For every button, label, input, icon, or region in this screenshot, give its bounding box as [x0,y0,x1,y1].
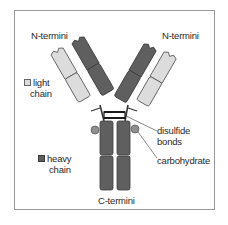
heavy-chain-left-ch3 [100,156,113,190]
disulfide-line1: disulfide [157,125,190,136]
legend-heavy-chain: heavy chain [38,154,71,175]
disulfide-line2: bonds [157,136,182,147]
legend-heavy-line2: chain [38,165,71,176]
disulfide-bonds [104,112,125,118]
legend-light-chain: light chain [24,78,52,99]
heavy-chain-right-ch3 [117,156,130,190]
heavy-chain-swatch [38,155,45,162]
carbohydrate-label: carbohydrate [157,156,210,167]
heavy-chain-left-ch2 [100,121,113,155]
heavy-chain-right-ch2 [117,121,130,155]
legend-light-line2: chain [24,89,52,100]
c-termini-label: C-termini [98,196,135,207]
n-termini-right-label: N-termini [162,31,199,42]
carbohydrate-left [91,126,99,134]
legend-heavy-line1: heavy [47,153,71,164]
antibody-diagram: N-termini N-termini light chain heavy ch… [0,0,228,225]
carbohydrate-right [131,125,139,133]
light-chain-swatch [24,79,31,86]
n-termini-left-label: N-termini [31,31,68,42]
disulfide-bonds-label: disulfide bonds [157,126,190,147]
legend-light-line1: light [33,77,49,88]
